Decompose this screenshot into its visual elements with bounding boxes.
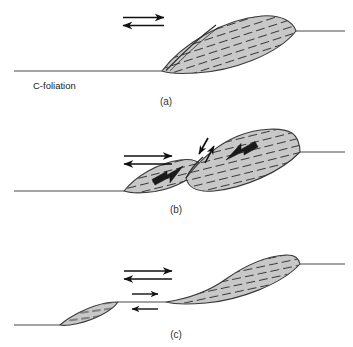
panel-label-b: (b) — [170, 204, 182, 215]
lens-a — [162, 16, 296, 74]
shear-lens-diagram: C-foliation (a) (b) — [0, 0, 353, 347]
c-foliation-label: C-foliation — [33, 80, 76, 91]
lens-c-large — [166, 255, 300, 304]
lens-b-right-block — [186, 129, 300, 191]
fracture-slip-arrow-down-b — [199, 138, 208, 154]
panel-label-c: (c) — [170, 329, 182, 340]
panel-a: C-foliation (a) — [14, 16, 345, 107]
lens-c-small — [60, 302, 118, 325]
panel-label-a: (a) — [160, 96, 172, 107]
panel-c: (c) — [14, 255, 345, 340]
panel-b: (b) — [14, 129, 345, 215]
